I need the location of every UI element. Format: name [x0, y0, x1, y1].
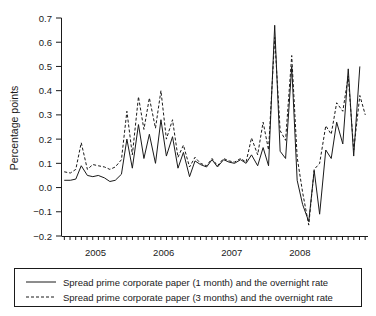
y-axis-ticks: −0.2−0.10.00.10.20.30.40.50.60.7 — [33, 13, 61, 242]
series-line-2 — [64, 37, 365, 225]
legend-label-2: Spread prime corporate paper (3 months) … — [63, 292, 333, 303]
y-tick-label: 0.1 — [39, 158, 52, 169]
x-tick-label: 2005 — [85, 247, 106, 258]
y-axis-label: Percentage points — [8, 86, 20, 171]
x-tick-label: 2006 — [153, 247, 174, 258]
y-tick-label: 0.5 — [39, 61, 52, 72]
y-tick-label: 0.0 — [39, 182, 52, 193]
x-axis-ticks: 2005200620072008 — [64, 237, 365, 259]
x-tick-label: 2007 — [221, 247, 242, 258]
y-axis-label-group: Percentage points — [8, 86, 20, 171]
y-tick-label: 0.7 — [39, 13, 52, 24]
y-tick-label: 0.3 — [39, 109, 52, 120]
x-tick-label: 2008 — [289, 247, 310, 258]
y-tick-label: −0.1 — [33, 206, 52, 217]
y-tick-label: −0.2 — [33, 231, 52, 242]
data-series-layer — [64, 25, 365, 225]
y-tick-label: 0.2 — [39, 134, 52, 145]
y-tick-label: 0.4 — [39, 85, 52, 96]
chart-container: Percentage points −0.2−0.10.00.10.20.30.… — [0, 0, 376, 316]
spread-line-chart: Percentage points −0.2−0.10.00.10.20.30.… — [0, 0, 376, 316]
y-tick-label: 0.6 — [39, 37, 52, 48]
legend-label-1: Spread prime corporate paper (1 month) a… — [63, 277, 328, 288]
series-line-1 — [64, 25, 360, 221]
